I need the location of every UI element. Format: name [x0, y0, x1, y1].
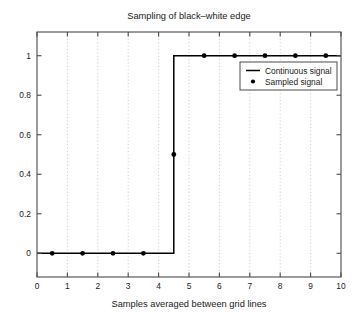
x-tick-label-8: 8 [278, 281, 283, 291]
sample-point-8 [293, 53, 298, 58]
sample-point-4 [171, 152, 176, 157]
chart-title: Sampling of black–white edge [127, 11, 251, 21]
sample-point-2 [111, 251, 116, 256]
legend-dot-icon [251, 79, 255, 83]
x-tick-label-7: 7 [247, 281, 252, 291]
sampling-chart: 012345678910 00.20.40.60.81 Sampling of … [0, 0, 363, 325]
sample-point-0 [50, 251, 55, 256]
y-tick-label-0: 0 [26, 248, 31, 258]
x-tick-label-9: 9 [308, 281, 313, 291]
y-tick-label-4: 0.8 [19, 90, 31, 100]
y-tick-label-5: 1 [26, 51, 31, 61]
x-tick-labels: 012345678910 [35, 281, 346, 291]
y-tick-labels: 00.20.40.60.81 [19, 51, 31, 259]
x-tick-label-0: 0 [35, 281, 40, 291]
sample-point-1 [80, 251, 85, 256]
y-tick-label-3: 0.6 [19, 130, 31, 140]
x-tick-label-3: 3 [126, 281, 131, 291]
y-tick-label-2: 0.4 [19, 169, 31, 179]
x-tick-label-2: 2 [95, 281, 100, 291]
figure-container: 012345678910 00.20.40.60.81 Sampling of … [0, 0, 363, 325]
x-axis-label: Samples averaged between grid lines [111, 299, 266, 309]
legend-label-sampled: Sampled signal [265, 77, 322, 87]
sample-point-5 [202, 53, 207, 58]
x-tick-label-4: 4 [156, 281, 161, 291]
sample-point-6 [232, 53, 237, 58]
x-tick-label-6: 6 [217, 281, 222, 291]
x-tick-label-10: 10 [336, 281, 346, 291]
sample-point-9 [323, 53, 328, 58]
sample-point-7 [263, 53, 268, 58]
y-tick-label-1: 0.2 [19, 209, 31, 219]
legend: Continuous signal Sampled signal [240, 62, 337, 90]
x-tick-label-5: 5 [187, 281, 192, 291]
sample-point-3 [141, 251, 146, 256]
x-tick-label-1: 1 [65, 281, 70, 291]
legend-label-continuous: Continuous signal [265, 66, 332, 76]
